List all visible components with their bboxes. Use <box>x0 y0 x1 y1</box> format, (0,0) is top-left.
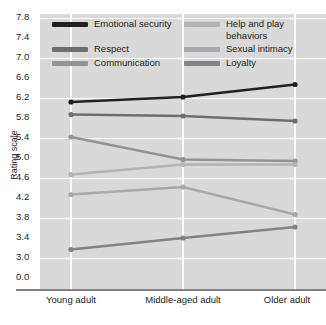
data-point <box>180 162 185 167</box>
legend-swatch-icon <box>184 22 220 27</box>
legend-swatch-icon <box>184 47 220 52</box>
data-point <box>68 112 73 117</box>
legend-label: Sexual intimacy <box>226 43 293 55</box>
data-point <box>292 118 297 123</box>
data-point <box>68 172 73 177</box>
data-point <box>292 224 297 229</box>
series-respect <box>68 112 297 124</box>
data-point <box>180 94 185 99</box>
legend-swatch-icon <box>184 61 220 66</box>
series-emotional-security <box>68 82 297 105</box>
legend-swatch-icon <box>52 22 88 27</box>
data-point <box>292 212 297 217</box>
data-point <box>68 192 73 197</box>
legend-swatch-icon <box>52 47 88 52</box>
series-loyalty <box>68 224 297 252</box>
data-point <box>180 184 185 189</box>
data-point <box>180 235 185 240</box>
line-chart: Rating scale 7.87.47.06.66.25.85.45.04.6… <box>0 0 326 325</box>
data-point <box>68 247 73 252</box>
legend-item[interactable]: Communication <box>52 57 184 69</box>
series-sexual-intimacy <box>68 184 297 217</box>
data-point <box>68 99 73 104</box>
data-point <box>180 157 185 162</box>
legend-item[interactable]: Respect <box>52 43 184 55</box>
legend-label: Emotional security <box>94 18 172 30</box>
data-point <box>292 82 297 87</box>
legend-item[interactable]: Sexual intimacy <box>184 43 320 55</box>
legend-item[interactable]: Help and play behaviors <box>184 18 320 41</box>
legend-swatch-icon <box>52 61 88 66</box>
legend-label: Loyalty <box>226 57 256 69</box>
chart-legend: Emotional securityHelp and play behavior… <box>52 18 320 76</box>
legend-label: Help and play behaviors <box>226 18 320 41</box>
legend-item[interactable]: Loyalty <box>184 57 320 69</box>
data-point <box>180 113 185 118</box>
legend-item[interactable]: Emotional security <box>52 18 184 41</box>
legend-label: Respect <box>94 43 129 55</box>
legend-label: Communication <box>94 57 160 69</box>
series-help-and-play-behaviors <box>68 162 297 177</box>
series-communication <box>68 134 297 163</box>
series-line <box>71 187 295 215</box>
data-point <box>292 162 297 167</box>
data-point <box>68 134 73 139</box>
